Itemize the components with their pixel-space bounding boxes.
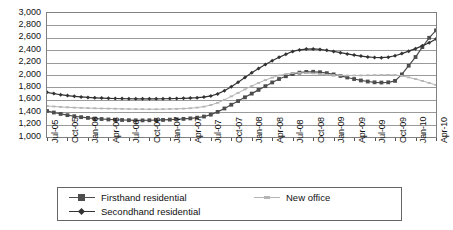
data-point-marker: [236, 99, 240, 103]
data-point-marker: [216, 110, 220, 114]
data-point-marker: [427, 36, 431, 40]
x-tick-label: Apr-09: [358, 117, 367, 143]
data-point-marker: [161, 97, 165, 101]
data-point-marker: [277, 75, 280, 77]
data-point-marker: [47, 90, 49, 94]
data-point-marker: [182, 117, 186, 121]
legend-item-firsthand-residential: Firsthand residential: [69, 191, 187, 204]
data-point-marker: [393, 79, 397, 83]
x-tickmark: [47, 138, 48, 141]
data-point-marker: [209, 94, 213, 98]
data-point-marker: [352, 53, 356, 57]
data-point-marker: [263, 84, 267, 88]
data-point-marker: [373, 74, 376, 76]
x-tick-label: Apr-08: [276, 117, 285, 143]
series-new-office: [47, 72, 436, 110]
legend-swatch-new-office: [254, 192, 280, 203]
data-point-marker: [86, 107, 89, 109]
data-point-marker: [127, 97, 131, 101]
data-point-marker: [59, 112, 63, 116]
y-tick-label: 1,200: [18, 119, 41, 128]
data-point-marker: [373, 80, 377, 84]
x-tickmark: [293, 138, 294, 141]
data-point-marker: [414, 55, 418, 59]
x-tick-label: Oct-06: [153, 117, 162, 143]
x-tick-label: Jan-08: [255, 117, 264, 143]
data-point-marker: [141, 108, 144, 110]
data-point-marker: [47, 105, 49, 107]
data-point-marker: [400, 52, 404, 56]
data-point-marker: [366, 74, 369, 76]
y-tick-label: 2,200: [18, 57, 41, 66]
x-tickmark: [354, 138, 355, 141]
data-point-marker: [264, 79, 267, 81]
x-tickmark: [375, 138, 376, 141]
data-point-marker: [79, 95, 83, 99]
data-point-marker: [229, 103, 233, 107]
data-point-marker: [277, 55, 281, 59]
data-point-marker: [168, 97, 172, 101]
data-point-marker: [114, 108, 117, 110]
data-point-marker: [291, 49, 295, 53]
data-point-marker: [318, 47, 322, 51]
series-line: [47, 35, 436, 99]
x-tickmark: [334, 138, 335, 141]
data-point-marker: [148, 108, 151, 110]
data-point-marker: [80, 107, 83, 109]
data-point-marker: [325, 48, 329, 52]
x-tick-label: Oct-05: [71, 117, 80, 143]
x-tickmark: [170, 138, 171, 141]
data-point-marker: [175, 108, 178, 110]
data-point-marker: [223, 107, 227, 111]
data-point-marker: [380, 81, 384, 85]
y-tick-label: 1,800: [18, 82, 41, 91]
data-point-marker: [134, 108, 137, 110]
x-tickmark: [313, 138, 314, 141]
data-point-marker: [216, 92, 220, 96]
data-point-marker: [52, 111, 56, 115]
data-point-marker: [359, 75, 362, 77]
data-point-marker: [100, 117, 104, 121]
data-point-marker: [332, 74, 335, 76]
data-point-marker: [298, 72, 301, 74]
x-tickmark: [149, 138, 150, 141]
data-point-marker: [352, 77, 356, 81]
data-point-marker: [407, 76, 410, 78]
y-axis: 3,0002,8002,6002,4002,2002,0001,8001,600…: [0, 0, 44, 150]
y-tick-label: 2,600: [18, 32, 41, 41]
data-point-marker: [66, 106, 69, 108]
data-point-marker: [359, 79, 363, 83]
x-tickmark: [211, 138, 212, 141]
data-point-marker: [93, 107, 96, 109]
x-tickmark: [129, 138, 130, 141]
x-tickmark: [436, 138, 437, 141]
data-point-marker: [359, 54, 363, 58]
x-tick-label: Jul-09: [378, 120, 387, 143]
data-point-marker: [161, 108, 164, 110]
data-point-marker: [147, 97, 151, 101]
data-point-marker: [113, 96, 117, 100]
data-point-marker: [393, 54, 397, 58]
data-point-marker: [216, 102, 219, 104]
x-tick-label: Apr-07: [194, 117, 203, 143]
y-tick-label: 3,000: [18, 8, 41, 17]
legend-label-secondhand-residential: Secondhand residential: [101, 206, 200, 217]
x-tickmark: [88, 138, 89, 141]
data-point-marker: [257, 82, 260, 84]
data-point-marker: [202, 106, 205, 108]
data-point-marker: [209, 113, 213, 117]
data-point-marker: [189, 107, 192, 109]
data-point-marker: [65, 94, 69, 98]
data-point-marker: [100, 108, 103, 110]
data-point-marker: [414, 78, 417, 80]
data-point-marker: [338, 51, 342, 55]
data-point-marker: [393, 74, 396, 76]
x-tick-label: Oct-08: [317, 117, 326, 143]
data-point-marker: [72, 94, 76, 98]
chart-legend: Firsthand residential Secondhand residen…: [57, 187, 402, 221]
x-tick-label: Apr-10: [440, 117, 449, 143]
data-point-marker: [181, 96, 185, 100]
data-point-marker: [379, 56, 383, 60]
data-point-marker: [345, 52, 349, 56]
data-point-marker: [312, 73, 315, 75]
